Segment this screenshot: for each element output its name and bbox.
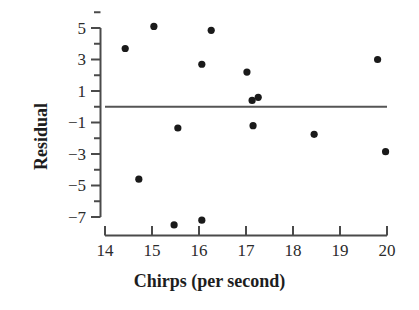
residual-scatter-plot-figure: 531−1−3−5−7 14151617181920 Residual Chir… — [0, 0, 419, 310]
y-tick-label: 5 — [48, 20, 86, 37]
data-point — [174, 124, 181, 131]
y-axis — [91, 12, 101, 217]
data-point — [374, 56, 381, 63]
x-tick-label: 20 — [367, 242, 407, 259]
data-point — [311, 131, 318, 138]
x-tick-label: 19 — [320, 242, 360, 259]
data-point — [135, 176, 142, 183]
x-tick-label: 14 — [85, 242, 125, 259]
data-point — [382, 148, 389, 155]
y-tick-label: −7 — [48, 209, 86, 226]
y-axis-major-ticks — [91, 28, 101, 217]
x-axis — [105, 226, 387, 236]
data-point — [255, 94, 262, 101]
y-tick-label: 3 — [48, 51, 86, 68]
y-tick-label: −5 — [48, 177, 86, 194]
x-tick-label: 18 — [273, 242, 313, 259]
data-point — [198, 61, 205, 68]
scatter-data-points — [122, 23, 390, 229]
x-tick-label: 16 — [179, 242, 219, 259]
y-tick-label: −3 — [48, 146, 86, 163]
x-axis-major-ticks — [105, 226, 387, 236]
data-point — [150, 23, 157, 30]
x-tick-label: 17 — [226, 242, 266, 259]
data-point — [208, 27, 215, 34]
y-axis-title: Residual — [32, 103, 50, 170]
data-point — [198, 217, 205, 224]
y-tick-label: 1 — [48, 83, 86, 100]
data-point — [249, 122, 256, 129]
y-tick-label: −1 — [48, 114, 86, 131]
x-axis-title: Chirps (per second) — [0, 272, 419, 290]
data-point — [170, 221, 177, 228]
x-tick-label: 15 — [132, 242, 172, 259]
data-point — [122, 45, 129, 52]
data-point — [243, 69, 250, 76]
data-point — [249, 97, 256, 104]
